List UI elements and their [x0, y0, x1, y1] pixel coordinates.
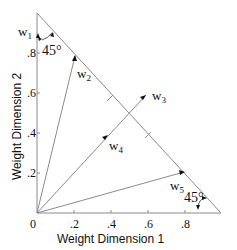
origin-label: 0 [30, 217, 36, 231]
ytick-label-0.8: .8 [27, 46, 36, 60]
angle-top-label: 45° [42, 43, 62, 58]
w5-vector [37, 172, 184, 213]
xtick-label-0.8: .8 [181, 217, 190, 231]
ytick-label-0.4: .4 [27, 126, 36, 140]
w2-vector [37, 56, 75, 213]
hypotenuse-ticks [107, 95, 151, 138]
angle-top-arc [42, 33, 52, 40]
x-axis-label: Weight Dimension 1 [57, 232, 164, 246]
w4-label: w4 [109, 138, 123, 155]
w3-label: w3 [152, 88, 166, 105]
weight-space-diagram: w1 w2 w3 w4 w5 45° 45° 0 .2 .4 .6 .8 .2 … [0, 0, 237, 250]
ytick-label-0.6: .6 [27, 86, 36, 100]
ytick-label-0.2: .2 [27, 166, 36, 180]
angle-bottom-label: 45° [184, 190, 204, 205]
y-axis-label: Weight Dimension 2 [10, 73, 24, 180]
w2-label: w2 [77, 66, 91, 83]
w5-label: w5 [170, 178, 184, 195]
w3-vector [37, 95, 146, 213]
xtick-label-0.6: .6 [144, 217, 153, 231]
xtick-label-0.2: .2 [70, 217, 79, 231]
w1-label: w1 [18, 24, 32, 41]
xtick-label-0.4: .4 [107, 217, 116, 231]
